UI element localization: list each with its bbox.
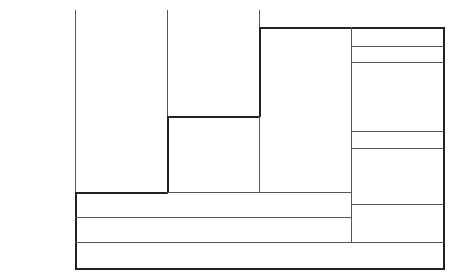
additional-therapy-level-2	[168, 218, 259, 242]
non-opioids-level-1	[76, 193, 167, 217]
level-2-guide	[167, 10, 168, 116]
additional-therapy-level-3	[260, 218, 351, 242]
level-3-guide	[259, 10, 260, 28]
non-opioids-level-2	[168, 193, 259, 217]
rc-header	[352, 28, 443, 46]
additional-therapy-level-1	[76, 218, 167, 242]
level-1-guide	[75, 10, 76, 192]
rc-line-4	[351, 148, 444, 149]
weak-opioids-cell	[168, 117, 259, 192]
rc-co-analgesics	[352, 47, 443, 62]
pain-arrow-entry	[12, 78, 67, 97]
bottom-edge	[75, 268, 445, 270]
non-opioids-level-3	[260, 193, 351, 217]
rc-line-5	[351, 204, 444, 205]
rc-adjuvants	[352, 132, 443, 148]
surgery-row	[76, 243, 443, 268]
strong-opioids-cell	[260, 28, 351, 192]
rc-line-2	[351, 62, 444, 63]
